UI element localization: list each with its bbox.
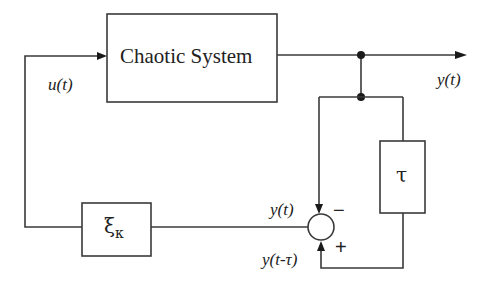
block-diagram (0, 0, 489, 284)
output-arrowhead (455, 51, 467, 59)
delay-label: τ (396, 165, 407, 185)
sum-top-signal-label: y(t) (270, 201, 294, 218)
input-signal-label: u(t) (48, 76, 73, 93)
output-signal-label: y(t) (437, 71, 461, 88)
chaotic-system-label: Chaotic System (120, 46, 252, 67)
sum-bottom-signal-label: y(t-τ) (262, 251, 297, 268)
input-arrowhead (97, 52, 107, 60)
minus-sign: − (333, 200, 345, 220)
controller-label: ξκ (104, 216, 124, 236)
summing-junction (308, 214, 334, 240)
sum-top-arrowhead (315, 204, 323, 214)
controller-subscript: κ (115, 225, 124, 241)
junction-dot-output (357, 51, 365, 59)
sum-bottom-arrowhead (317, 241, 325, 251)
controller-symbol: ξ (104, 214, 115, 238)
plus-sign: + (335, 237, 347, 257)
